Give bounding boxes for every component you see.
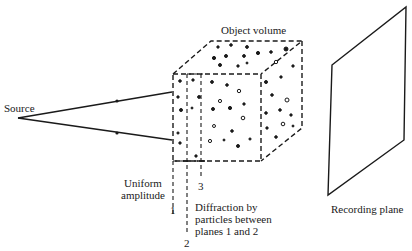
plane-3-label: 3 xyxy=(198,180,204,192)
diffraction-label-line1: Diffraction by xyxy=(195,201,257,213)
recording-plane-label: Recording plane xyxy=(331,203,403,215)
recording-plane-shape xyxy=(328,7,406,195)
plane-1-label: 1 xyxy=(170,204,176,216)
particles xyxy=(177,44,294,158)
uniform-amplitude-label-line2: amplitude xyxy=(121,189,165,201)
source-rays xyxy=(18,92,172,140)
source-label: Source xyxy=(4,102,35,114)
diffraction-label-line2: particles between xyxy=(195,213,272,225)
diffraction-label-line3: planes 1 and 2 xyxy=(195,225,258,237)
plane-2-label: 2 xyxy=(184,237,190,249)
diagram-canvas: Source Object volume Uniform amplitude 1… xyxy=(0,0,412,251)
object-volume-label: Object volume xyxy=(221,24,286,36)
uniform-amplitude-label-line1: Uniform xyxy=(124,177,162,189)
object-volume-cube xyxy=(173,41,302,161)
